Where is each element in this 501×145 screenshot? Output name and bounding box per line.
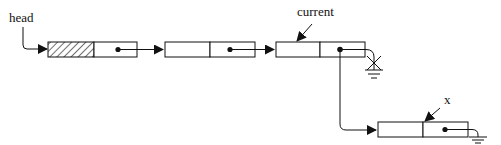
head-arrow — [23, 27, 47, 49]
new-link-arrow — [340, 50, 376, 131]
linked-list-diagram: head current x — [0, 0, 501, 145]
current-label: current — [297, 4, 334, 19]
node-3-data-cell — [276, 42, 320, 57]
x-arrow — [425, 108, 440, 121]
node-1-data-cell — [48, 42, 94, 57]
current-arrow — [297, 24, 312, 41]
null-ground-icon — [469, 137, 487, 143]
head-label: head — [9, 10, 34, 25]
node-x-data-cell — [378, 122, 423, 137]
x-label: x — [444, 92, 451, 107]
null-ground-icon — [365, 70, 383, 78]
node-2-data-cell — [165, 42, 210, 57]
